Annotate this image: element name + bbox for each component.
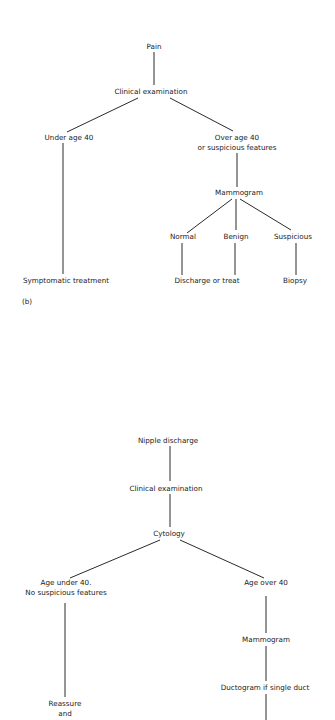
node-under-age-40-label: Under age 40: [45, 133, 94, 142]
node-age-over-40: Age over 40: [244, 578, 288, 588]
edge-exam-to-under40: [67, 98, 138, 132]
flowchart-canvas: Pain Clinical examination Under age 40 O…: [0, 0, 335, 720]
node-over-age-40-line1: Over age 40: [198, 133, 277, 143]
node-symptomatic-treatment-label: Symptomatic treatment: [23, 276, 109, 285]
node-clinical-examination-a-label: Clinical examination: [115, 87, 188, 96]
node-age-over-40-label: Age over 40: [244, 578, 288, 587]
edge-exam-to-over40: [170, 98, 233, 131]
node-ductogram-label: Ductogram if single duct: [221, 683, 310, 692]
node-pain-label: Pain: [147, 42, 162, 51]
node-clinical-examination-b: Clinical examination: [130, 484, 203, 494]
node-pain: Pain: [147, 42, 162, 52]
node-symptomatic-treatment: Symptomatic treatment: [23, 276, 109, 286]
node-age-under-40: Age under 40. No suspicious features: [25, 578, 106, 597]
node-over-age-40-line2: or suspicious features: [198, 143, 277, 153]
node-mammogram-a: Mammogram: [215, 188, 263, 198]
node-benign-label: Benign: [223, 232, 248, 241]
edge-cytology-to-under40: [70, 540, 160, 578]
node-normal-label: Normal: [170, 232, 196, 241]
node-reassure: Reassure and: [49, 699, 82, 718]
node-nipple-discharge-label: Nipple discharge: [138, 436, 198, 445]
node-clinical-examination-a: Clinical examination: [115, 87, 188, 97]
node-discharge-or-treat-label: Discharge or treat: [174, 276, 239, 285]
node-cytology-label: Cytology: [153, 529, 185, 538]
node-over-age-40: Over age 40 or suspicious features: [198, 133, 277, 152]
node-biopsy: Biopsy: [283, 276, 307, 286]
node-mammogram-a-label: Mammogram: [215, 188, 263, 197]
node-suspicious-label: Suspicious: [274, 232, 312, 241]
node-mammogram-b: Mammogram: [242, 635, 290, 645]
node-benign: Benign: [223, 232, 248, 242]
node-clinical-examination-b-label: Clinical examination: [130, 484, 203, 493]
edge-cytology-to-over40: [180, 540, 264, 578]
panel-label-b: (b): [22, 297, 32, 306]
node-reassure-line2: and: [49, 709, 82, 719]
node-nipple-discharge: Nipple discharge: [138, 436, 198, 446]
node-ductogram: Ductogram if single duct: [221, 683, 310, 693]
node-under-age-40: Under age 40: [45, 133, 94, 143]
node-biopsy-label: Biopsy: [283, 276, 307, 285]
edge-mammogram-to-normal: [187, 199, 232, 233]
node-mammogram-b-label: Mammogram: [242, 635, 290, 644]
node-suspicious: Suspicious: [274, 232, 312, 242]
node-discharge-or-treat: Discharge or treat: [174, 276, 239, 286]
node-age-under-40-line2: No suspicious features: [25, 588, 106, 598]
node-normal: Normal: [170, 232, 196, 242]
node-cytology: Cytology: [153, 529, 185, 539]
node-age-under-40-line1: Age under 40.: [25, 578, 106, 588]
connector-lines: [0, 0, 335, 720]
node-reassure-line1: Reassure: [49, 699, 82, 709]
edge-mammogram-to-suspicious: [240, 199, 291, 230]
